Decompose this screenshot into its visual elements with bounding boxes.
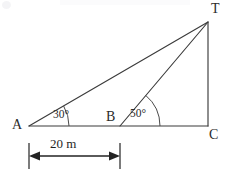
vertex-label-t: T: [211, 2, 220, 16]
angle-label-b: 50°: [130, 108, 146, 120]
angle-label-a: 30°: [53, 109, 69, 121]
dimension-arrow-right: [109, 152, 120, 161]
vertex-label-c: C: [209, 128, 218, 142]
vertex-label-a: A: [12, 118, 22, 132]
angle-arc-b-50: [146, 95, 160, 126]
vertex-label-b: B: [106, 110, 115, 124]
figure-canvas: [0, 0, 228, 175]
dimension-label-20m: 20 m: [50, 137, 76, 150]
geometry-figure: A B C T 30° 50° 20 m: [0, 0, 228, 175]
dimension-arrow-left: [29, 152, 40, 161]
